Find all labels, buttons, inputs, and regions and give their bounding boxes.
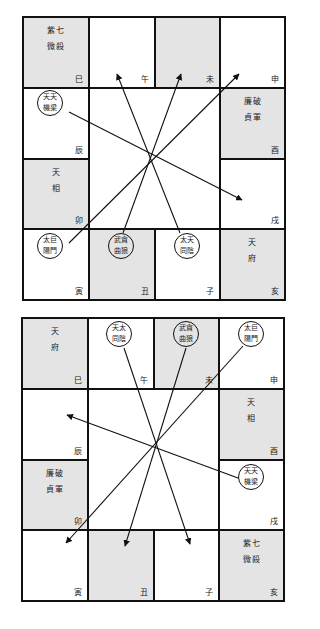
bottom-chart: 天府 巳 天太同陰 午 武貪曲狼 未 太巨陽門 申 辰 天相 酉 廉破貞軍 卯 …	[22, 318, 284, 601]
arrow-yin-to-shen	[69, 74, 239, 243]
arrow-zi-to-wu	[117, 74, 180, 233]
top-chart: 紫七微殺 巳 午 未 申 天天機梁 辰 廉破貞軍 酉 天相 卯 戌 太巨陽門 寅…	[23, 17, 285, 300]
grid-lines-and-arrows	[23, 17, 285, 300]
grid-lines-and-arrows	[22, 318, 284, 601]
arrow-wu-to-zi	[124, 348, 190, 544]
arrow-chou-to-wei	[123, 74, 181, 233]
arrow-chen-to-xu	[69, 112, 242, 200]
